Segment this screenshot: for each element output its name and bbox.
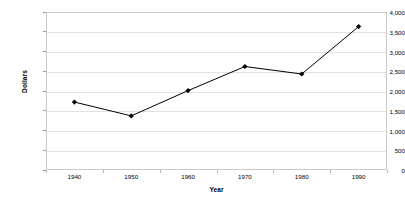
gridline — [47, 32, 386, 33]
x-axis-tick-label: 1960 — [181, 173, 195, 180]
x-axis-tick-label: 1990 — [352, 173, 366, 180]
gridline — [47, 72, 386, 73]
y-axis-tick-mark — [43, 12, 46, 13]
y-axis-tick-label: 1,500 — [365, 107, 405, 114]
y-axis-tick-label: 0 — [365, 167, 405, 174]
y-axis-tick-label: 1,000 — [365, 127, 405, 134]
y-axis-tick-label: 3,500 — [365, 28, 405, 35]
y-axis-tick-mark — [43, 71, 46, 72]
x-axis-tick-mark — [387, 170, 388, 173]
y-axis-tick-label: 4,000 — [365, 9, 405, 16]
y-axis-tick-label: 2,500 — [365, 68, 405, 75]
x-axis-tick-mark — [46, 170, 47, 173]
gridline — [47, 52, 386, 53]
gridline — [47, 151, 386, 152]
x-axis-tick-label: 1970 — [238, 173, 252, 180]
y-axis-tick-mark — [43, 130, 46, 131]
x-axis-tick-mark — [160, 170, 161, 173]
y-axis-tick-label: 500 — [365, 147, 405, 154]
y-axis-tick-label: 2,000 — [365, 88, 405, 95]
y-axis-tick-mark — [43, 110, 46, 111]
y-axis-title: Dollars — [21, 60, 28, 104]
gridline — [47, 111, 386, 112]
x-axis-tick-mark — [217, 170, 218, 173]
line-chart: Dollars Year 05001,0001,5002,0002,5003,0… — [0, 0, 405, 207]
y-axis-tick-mark — [43, 51, 46, 52]
y-axis-tick-mark — [43, 150, 46, 151]
x-axis-tick-label: 1950 — [124, 173, 138, 180]
x-axis-tick-mark — [330, 170, 331, 173]
y-axis-tick-label: 3,000 — [365, 48, 405, 55]
x-axis-tick-mark — [273, 170, 274, 173]
x-axis-tick-label: 1980 — [295, 173, 309, 180]
x-axis-title: Year — [46, 186, 387, 193]
gridline — [47, 92, 386, 93]
plot-area — [46, 12, 387, 170]
x-axis-tick-label: 1940 — [68, 173, 82, 180]
y-axis-tick-mark — [43, 31, 46, 32]
gridline — [47, 131, 386, 132]
y-axis-tick-mark — [43, 91, 46, 92]
x-axis-tick-mark — [103, 170, 104, 173]
